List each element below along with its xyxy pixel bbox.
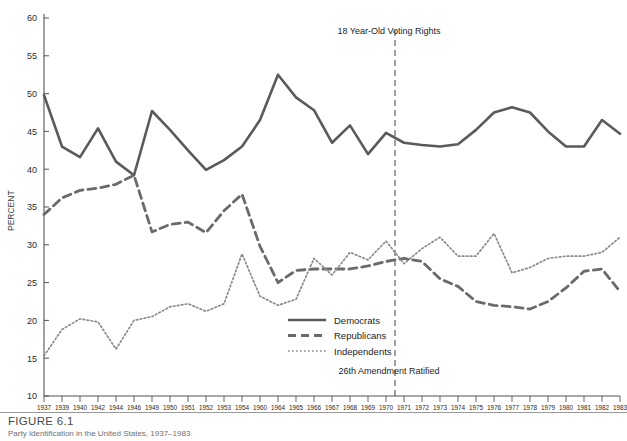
x-tick-label: 1976 <box>487 404 502 411</box>
y-axis-title: PERCENT <box>6 190 16 231</box>
x-tick-label: 1949 <box>145 404 160 411</box>
x-tick-label: 1946 <box>127 404 142 411</box>
x-tick-label: 1950 <box>163 404 178 411</box>
x-tick-label: 1977 <box>505 404 520 411</box>
x-tick-label: 1969 <box>361 404 376 411</box>
y-tick-label: 60 <box>27 13 37 23</box>
x-tick-label: 1974 <box>451 404 466 411</box>
legend-label-independents: Independents <box>334 346 392 357</box>
x-tick-label: 1960 <box>253 404 268 411</box>
figure-number: FIGURE 6.1 <box>8 415 627 427</box>
x-tick-label: 1937 <box>37 404 52 411</box>
party-identification-line-chart: 1015202530354045505560 19371939194019421… <box>0 0 627 418</box>
x-tick-label: 1980 <box>559 404 574 411</box>
x-tick-label: 1952 <box>199 404 214 411</box>
legend-label-republicans: Republicans <box>334 330 387 341</box>
figure-subtitle: Party Identification in the United State… <box>8 429 627 438</box>
y-axis: 1015202530354045505560 <box>27 13 49 401</box>
x-tick-label: 1981 <box>577 404 592 411</box>
x-tick-label: 1953 <box>217 404 232 411</box>
annotation-voting-rights: 18 Year-Old Voting Rights <box>337 26 441 36</box>
series-line-independents <box>44 233 620 355</box>
x-tick-label: 1940 <box>73 404 88 411</box>
x-tick-label: 1964 <box>271 404 286 411</box>
x-tick-label: 1965 <box>289 404 304 411</box>
y-tick-label: 25 <box>27 278 37 288</box>
x-tick-label: 1970 <box>379 404 394 411</box>
figure-6-1: 1015202530354045505560 19371939194019421… <box>0 0 627 441</box>
x-tick-label: 1971 <box>397 404 412 411</box>
x-tick-label: 1939 <box>55 404 70 411</box>
x-tick-label: 1978 <box>523 404 538 411</box>
data-series-group <box>44 75 620 356</box>
x-tick-label: 1982 <box>595 404 610 411</box>
x-tick-label: 1942 <box>91 404 106 411</box>
caption-divider <box>0 412 627 413</box>
x-tick-label: 1966 <box>307 404 322 411</box>
x-tick-label: 1975 <box>469 404 484 411</box>
y-tick-label: 55 <box>27 51 37 61</box>
x-tick-label: 1972 <box>415 404 430 411</box>
x-tick-label: 1973 <box>433 404 448 411</box>
x-tick-label: 1944 <box>109 404 124 411</box>
series-line-democrats <box>44 75 620 176</box>
x-tick-label: 1967 <box>325 404 340 411</box>
chart-plot-area: 1015202530354045505560 19371939194019421… <box>0 0 627 418</box>
y-tick-label: 20 <box>27 316 37 326</box>
x-tick-label: 1983 <box>613 404 627 411</box>
x-tick-label: 1979 <box>541 404 556 411</box>
x-axis: 1937193919401942194419461949195019511952… <box>37 396 627 411</box>
y-tick-label: 30 <box>27 240 37 250</box>
y-tick-label: 40 <box>27 165 37 175</box>
y-tick-label: 50 <box>27 89 37 99</box>
y-tick-label: 10 <box>27 391 37 401</box>
figure-caption: FIGURE 6.1 Party Identification in the U… <box>8 415 627 438</box>
x-tick-label: 1968 <box>343 404 358 411</box>
x-tick-label: 1954 <box>235 404 250 411</box>
x-tick-label: 1951 <box>181 404 196 411</box>
series-line-republicans <box>44 175 620 309</box>
chart-legend: DemocratsRepublicansIndependents <box>288 315 392 357</box>
y-tick-label: 35 <box>27 202 37 212</box>
y-tick-label: 45 <box>27 127 37 137</box>
y-tick-label: 15 <box>27 354 37 364</box>
annotation-amendment: 26th Amendment Ratified <box>338 366 439 376</box>
legend-label-democrats: Democrats <box>334 315 380 326</box>
